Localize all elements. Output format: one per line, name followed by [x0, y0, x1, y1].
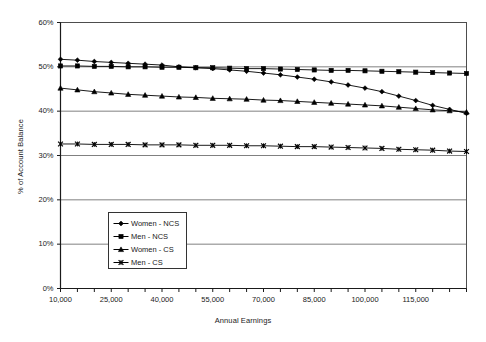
data-point-marker [160, 65, 164, 69]
data-point-marker [126, 65, 130, 69]
data-point-marker [346, 83, 351, 88]
marker-diamond [329, 80, 334, 85]
chart-plot-area [0, 0, 486, 342]
marker-diamond [261, 71, 266, 76]
data-point-marker [295, 67, 299, 71]
legend-marker-square-icon [112, 231, 130, 242]
data-point-marker [92, 64, 96, 68]
y-axis-tick-label: 40% [20, 106, 54, 115]
legend-item-4: Men - CS [109, 256, 186, 269]
data-point-marker [278, 72, 283, 77]
data-point-marker [261, 67, 265, 71]
data-series-4 [58, 142, 469, 154]
data-point-marker [119, 234, 123, 238]
data-point-marker [92, 59, 97, 64]
marker-square [92, 64, 96, 68]
data-point-marker [194, 66, 198, 70]
data-point-marker [413, 98, 418, 103]
marker-square [397, 70, 401, 74]
data-point-marker [312, 68, 316, 72]
marker-diamond [380, 89, 385, 94]
marker-diamond [346, 83, 351, 88]
marker-square [228, 66, 232, 70]
data-point-marker [397, 70, 401, 74]
marker-diamond [58, 57, 63, 62]
marker-square [261, 67, 265, 71]
legend-marker-diamond-icon [112, 218, 130, 229]
data-point-marker [380, 69, 384, 73]
legend-item-1: Women - NCS [109, 217, 186, 230]
data-series-1 [58, 57, 469, 116]
y-axis-tick-label: 50% [20, 62, 54, 71]
x-axis-tick-label: 40,000 [139, 295, 185, 304]
marker-diamond [295, 75, 300, 80]
x-axis-title: Annual Earnings [0, 316, 486, 325]
data-point-marker [119, 221, 124, 226]
data-point-marker [414, 70, 418, 74]
data-point-marker [278, 67, 282, 71]
x-axis-tick-label: 115,000 [393, 295, 439, 304]
data-point-marker [380, 89, 385, 94]
marker-square [380, 69, 384, 73]
data-point-marker [109, 64, 113, 68]
marker-square [211, 66, 215, 70]
data-point-marker [75, 58, 80, 63]
marker-square [160, 65, 164, 69]
data-point-marker [58, 64, 62, 68]
data-point-marker [177, 65, 181, 69]
data-point-marker [211, 66, 215, 70]
marker-square [194, 66, 198, 70]
data-point-marker [464, 71, 468, 75]
legend-label: Women - CS [130, 245, 174, 254]
legend-marker-triangle-icon [112, 244, 130, 255]
marker-square [143, 65, 147, 69]
marker-diamond [363, 86, 368, 91]
data-point-marker [295, 75, 300, 80]
x-axis-tick-label: 70,000 [241, 295, 287, 304]
marker-square [447, 71, 451, 75]
marker-square [431, 70, 435, 74]
marker-square [363, 69, 367, 73]
marker-diamond [75, 58, 80, 63]
x-axis-tick-label: 10,000 [38, 295, 84, 304]
y-axis-tick-label: 0% [20, 284, 54, 293]
legend-marker-cross-icon [112, 257, 130, 268]
marker-square [329, 68, 333, 72]
data-point-marker [396, 94, 401, 99]
data-point-marker [329, 80, 334, 85]
chart-figure: % of Account Balance Annual Earnings 0%1… [0, 0, 486, 342]
marker-square [464, 71, 468, 75]
marker-square [126, 65, 130, 69]
data-point-marker [75, 64, 79, 68]
data-point-marker [363, 69, 367, 73]
data-point-marker [346, 68, 350, 72]
data-point-marker [58, 57, 63, 62]
marker-diamond [396, 94, 401, 99]
data-point-marker [261, 71, 266, 76]
marker-diamond [413, 98, 418, 103]
marker-square [312, 68, 316, 72]
x-axis-tick-label: 100,000 [342, 295, 388, 304]
y-axis-tick-label: 20% [20, 195, 54, 204]
marker-square [75, 64, 79, 68]
marker-square [58, 64, 62, 68]
marker-square [414, 70, 418, 74]
legend-item-2: Men - NCS [109, 230, 186, 243]
legend-label: Women - NCS [130, 219, 179, 228]
x-axis-tick-label: 25,000 [88, 295, 134, 304]
y-axis-tick-label: 60% [20, 18, 54, 27]
marker-square [278, 67, 282, 71]
data-point-marker [363, 86, 368, 91]
data-point-marker [431, 70, 435, 74]
legend-item-3: Women - CS [109, 243, 186, 256]
legend-label: Men - NCS [130, 232, 168, 241]
marker-diamond [312, 77, 317, 82]
y-axis-tick-label: 10% [20, 239, 54, 248]
data-point-marker [329, 68, 333, 72]
marker-square [119, 234, 123, 238]
marker-square [295, 67, 299, 71]
marker-square [109, 64, 113, 68]
marker-square [177, 65, 181, 69]
legend-label: Men - CS [130, 258, 163, 267]
data-point-marker [312, 77, 317, 82]
